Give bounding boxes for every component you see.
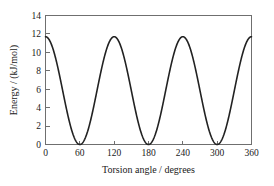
y-tick-label: 14 — [32, 11, 42, 21]
y-tick-label: 0 — [36, 140, 41, 150]
y-axis-title: Energy / (kJ/mol) — [8, 45, 20, 115]
x-axis-title: Torsion angle / degrees — [102, 164, 195, 175]
x-tick-label: 300 — [210, 148, 225, 158]
y-tick-label: 6 — [36, 85, 41, 95]
x-tick-label: 60 — [75, 148, 85, 158]
x-tick-label: 240 — [176, 148, 191, 158]
chart-figure: 0 2 4 6 8 10 12 14 0 60 120 180 240 300 … — [0, 0, 274, 186]
figure-background — [0, 0, 274, 186]
y-tick-label: 10 — [32, 48, 42, 58]
y-tick-label: 12 — [32, 29, 42, 39]
x-tick-label: 180 — [141, 148, 156, 158]
y-tick-label: 2 — [36, 121, 41, 131]
x-tick-label: 0 — [43, 148, 48, 158]
x-tick-label: 120 — [107, 148, 122, 158]
torsional-energy-chart: 0 2 4 6 8 10 12 14 0 60 120 180 240 300 … — [0, 0, 274, 186]
y-tick-label: 4 — [36, 103, 41, 113]
x-tick-label: 360 — [244, 148, 259, 158]
y-tick-label: 8 — [36, 66, 41, 76]
